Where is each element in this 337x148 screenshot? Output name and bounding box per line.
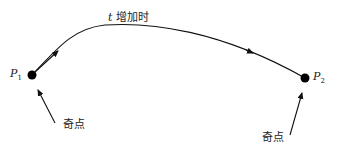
direction-arrow-start bbox=[35, 51, 58, 72]
point-label-p2: P2 bbox=[313, 70, 325, 85]
point-p1 bbox=[28, 71, 37, 80]
parametric-curve bbox=[32, 24, 305, 78]
direction-arrow-mid bbox=[246, 50, 253, 53]
singular-arrow-p2 bbox=[290, 93, 302, 135]
point-label-p1: P1 bbox=[10, 67, 22, 82]
curve-label-var: t bbox=[108, 11, 112, 24]
singular-arrow-p1 bbox=[38, 90, 55, 123]
curve-diagram bbox=[0, 0, 337, 148]
curve-label-text: 增加时 bbox=[116, 11, 149, 24]
curve-label: t 增加时 bbox=[108, 8, 149, 24]
singular-label-p1: 奇点 bbox=[63, 115, 85, 131]
point-p2 bbox=[301, 74, 310, 83]
singular-label-p2: 奇点 bbox=[262, 128, 284, 144]
